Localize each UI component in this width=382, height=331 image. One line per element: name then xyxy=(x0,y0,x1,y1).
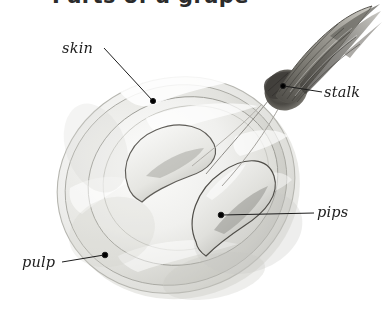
leader-dot-pulp xyxy=(102,252,108,258)
label-skin: skin xyxy=(62,40,93,56)
label-pulp: pulp xyxy=(22,254,55,270)
label-stalk: stalk xyxy=(324,84,360,100)
fruit-illustration xyxy=(0,0,382,331)
label-pips: pips xyxy=(317,204,348,220)
leader-dot-stalk xyxy=(280,83,285,88)
leader-dot-skin xyxy=(150,98,155,103)
diagram-canvas: Parts of a grape xyxy=(0,0,382,331)
leader-dot-pips xyxy=(218,212,224,218)
